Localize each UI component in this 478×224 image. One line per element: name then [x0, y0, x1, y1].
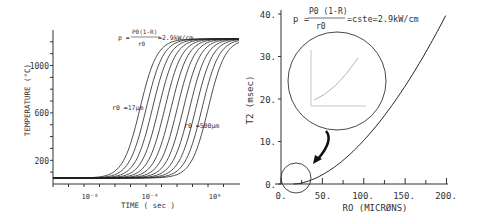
x-tick-50: 50.: [315, 191, 331, 201]
formula-denominator: r0: [138, 40, 146, 47]
y-axis-label: TEMPERATURE (°C): [23, 64, 32, 136]
x-tick-1e-4: 10⁻⁴: [142, 193, 159, 201]
formula-right: =cste=2.9kW/cm: [347, 14, 419, 24]
y-tick-40: 40.: [260, 10, 276, 20]
temperature-curves: [53, 39, 239, 178]
right-chart: 40. 30. 20. 10. 0. 0. 50. 100. 150. 200.…: [245, 7, 457, 213]
y-tick-30: 30.: [260, 52, 276, 62]
x-tick-200: 200.: [435, 191, 457, 201]
figure: 1000 600 200 10⁻⁸ 10⁻⁴ 10⁰ TIME ( sec ) …: [0, 0, 478, 224]
y-tick-200: 200: [35, 157, 50, 166]
formula-denominator: r0: [316, 22, 326, 31]
x-tick-1e0: 10⁰: [209, 193, 222, 201]
y-tick-0: 0.: [265, 180, 276, 190]
label-r0-500um: r0 =500µm: [184, 122, 219, 130]
formula-left: p =: [118, 34, 130, 42]
x-tick-0: 0.: [276, 191, 287, 201]
y-axis-label: T2 (msec): [245, 76, 255, 125]
y-tick-1000: 1000: [30, 62, 49, 71]
x-tick-150: 150.: [393, 191, 415, 201]
formula-numerator: P0(1-R): [132, 28, 157, 35]
arrow-icon: [318, 131, 329, 159]
formula-numerator: P0 (1-R): [309, 7, 348, 16]
left-chart: 1000 600 200 10⁻⁸ 10⁻⁴ 10⁰ TIME ( sec ) …: [23, 28, 240, 210]
formula-left: p =: [293, 14, 310, 24]
zoom-source-circle: [281, 163, 311, 193]
inset-circle: [288, 32, 386, 130]
x-tick-100: 100.: [352, 191, 374, 201]
label-r0-17um: r0 =17µm: [112, 104, 143, 112]
y-tick-10: 10.: [260, 137, 276, 147]
x-tick-1e-8: 10⁻⁸: [82, 193, 99, 201]
y-tick-20: 20.: [260, 95, 276, 105]
x-axis-label: TIME ( sec ): [121, 201, 175, 210]
y-tick-600: 600: [35, 109, 50, 118]
x-axis-label: RO (MICRØNS): [342, 203, 407, 213]
